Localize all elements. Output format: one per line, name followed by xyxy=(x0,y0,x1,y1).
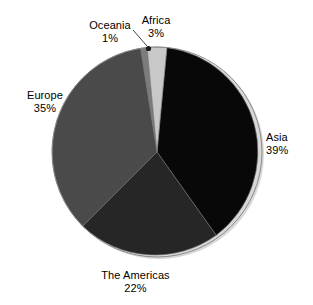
pie-label-africa-value: 3% xyxy=(132,27,180,40)
pie-label-the-americas: The Americas 22% xyxy=(82,269,189,295)
pie-label-africa-name: Africa xyxy=(132,14,180,27)
pie-label-oceania-name: Oceania xyxy=(83,19,137,32)
pie-label-oceania: Oceania 1% xyxy=(83,19,137,45)
pie-label-the-americas-value: 22% xyxy=(82,282,189,295)
pie-label-asia-name: Asia xyxy=(266,131,288,144)
pie-label-the-americas-name: The Americas xyxy=(82,269,189,282)
pie-label-europe-name: Europe xyxy=(14,89,76,102)
pie-label-asia-value: 39% xyxy=(266,144,288,157)
pie-chart: Asia 39% Europe 35% The Americas 22% Afr… xyxy=(0,0,313,305)
pie-label-asia: Asia 39% xyxy=(266,131,288,157)
pie-label-europe-value: 35% xyxy=(14,102,76,115)
oceania-leader-dot xyxy=(146,46,151,51)
pie-label-europe: Europe 35% xyxy=(14,89,76,115)
pie-label-oceania-value: 1% xyxy=(83,32,137,45)
pie-label-africa: Africa 3% xyxy=(132,14,180,40)
